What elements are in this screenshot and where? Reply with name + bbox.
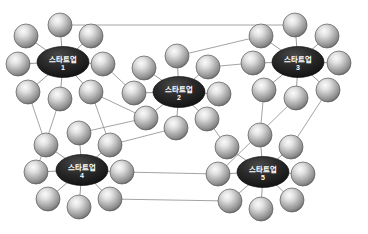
satellite-node[interactable] — [122, 81, 146, 105]
satellite-node[interactable] — [248, 123, 272, 147]
hub-node-1[interactable]: 스타트업1 — [37, 47, 89, 78]
satellite-node[interactable] — [67, 195, 91, 219]
hub-label-name: 스타트업 — [284, 55, 312, 64]
hub-node-4[interactable]: 스타트업4 — [56, 155, 108, 186]
hub-label-name: 스타트업 — [165, 85, 193, 94]
satellite-node[interactable] — [249, 197, 273, 221]
satellite-node[interactable] — [215, 135, 239, 159]
satellite-node[interactable] — [132, 56, 156, 80]
satellite-node[interactable] — [24, 160, 48, 184]
satellite-node[interactable] — [6, 52, 30, 76]
satellite-node[interactable] — [164, 116, 188, 140]
hub-node-5[interactable]: 스타트업5 — [237, 157, 289, 188]
inter-cluster-link — [110, 199, 230, 201]
hub-node-2[interactable]: 스타트업2 — [153, 77, 205, 108]
inter-cluster-link — [122, 172, 218, 174]
hub-label-name: 스타트업 — [49, 55, 77, 64]
satellite-node[interactable] — [284, 86, 308, 110]
satellite-node[interactable] — [79, 24, 103, 48]
hub-node-3[interactable]: 스타트업3 — [272, 47, 324, 78]
network-diagram: 스타트업1스타트업2스타트업3스타트업4스타트업5 — [0, 0, 368, 234]
hub-label-number: 2 — [177, 94, 181, 101]
hub-label-number: 4 — [80, 172, 84, 179]
satellite-node[interactable] — [206, 162, 230, 186]
satellite-node[interactable] — [283, 13, 307, 37]
satellite-node[interactable] — [207, 82, 231, 106]
satellite-node[interactable] — [98, 187, 122, 211]
satellite-nodes — [6, 13, 351, 221]
satellite-node[interactable] — [241, 51, 265, 75]
satellite-node[interactable] — [218, 189, 242, 213]
satellite-node[interactable] — [316, 78, 340, 102]
satellite-node[interactable] — [16, 80, 40, 104]
satellite-node[interactable] — [252, 78, 276, 102]
satellite-node[interactable] — [291, 162, 315, 186]
hub-label-name: 스타트업 — [249, 165, 277, 174]
satellite-node[interactable] — [67, 121, 91, 145]
satellite-node[interactable] — [195, 107, 219, 131]
satellite-node[interactable] — [279, 135, 303, 159]
satellite-node[interactable] — [48, 13, 72, 37]
hub-label-name: 스타트업 — [68, 163, 96, 172]
satellite-node[interactable] — [91, 52, 115, 76]
satellite-node[interactable] — [14, 24, 38, 48]
hub-label-number: 5 — [261, 174, 265, 181]
satellite-node[interactable] — [196, 55, 220, 79]
satellite-node[interactable] — [98, 133, 122, 157]
satellite-node[interactable] — [327, 51, 351, 75]
satellite-node[interactable] — [48, 87, 72, 111]
hub-label-number: 1 — [61, 64, 65, 71]
hub-label-number: 3 — [296, 64, 300, 71]
satellite-node[interactable] — [165, 44, 189, 68]
satellite-node[interactable] — [280, 188, 304, 212]
satellite-node[interactable] — [34, 133, 58, 157]
network-diagram-canvas: 스타트업1스타트업2스타트업3스타트업4스타트업5 — [0, 0, 368, 234]
satellite-node[interactable] — [249, 24, 273, 48]
satellite-node[interactable] — [315, 24, 339, 48]
satellite-node[interactable] — [110, 160, 134, 184]
satellite-node[interactable] — [79, 80, 103, 104]
satellite-node[interactable] — [134, 106, 158, 130]
satellite-node[interactable] — [36, 187, 60, 211]
